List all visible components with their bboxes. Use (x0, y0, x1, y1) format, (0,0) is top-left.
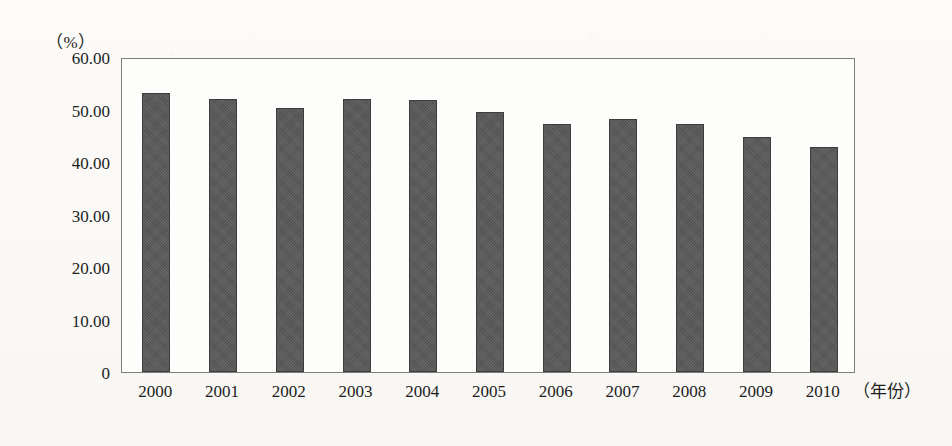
bar (209, 99, 237, 372)
x-axis-tick-label: 2002 (272, 383, 306, 400)
x-axis-tick-label: 2003 (339, 383, 373, 400)
x-axis-tick-labels: 2000200120022003200420052006200720082009… (121, 383, 855, 413)
x-axis-tick-label: 2000 (138, 383, 172, 400)
x-axis-tick-label: 2004 (405, 383, 439, 400)
bar (743, 137, 771, 372)
y-axis-tick-label: 50.00 (38, 102, 110, 119)
bar (409, 100, 437, 372)
y-axis-tick-label: 30.00 (38, 207, 110, 224)
plot-area (121, 58, 855, 373)
bar (609, 119, 637, 372)
x-axis-tick-label: 2010 (806, 383, 840, 400)
bar (142, 93, 170, 372)
chart-page: （%） 010.0020.0030.0040.0050.0060.00 2000… (0, 0, 952, 446)
y-axis-tick-label: 40.00 (38, 155, 110, 172)
bar (343, 99, 371, 372)
y-axis-tick-label: 0 (38, 365, 110, 382)
y-axis-tick-label: 60.00 (38, 50, 110, 67)
bar (543, 124, 571, 372)
x-axis-tick-label: 2001 (205, 383, 239, 400)
bar-series (122, 59, 854, 372)
x-axis-tick-label: 2007 (605, 383, 639, 400)
bar (476, 112, 504, 372)
x-axis-tick-label: 2006 (539, 383, 573, 400)
y-axis-tick-label: 10.00 (38, 312, 110, 329)
bar (810, 147, 838, 372)
x-axis-tick-label: 2009 (739, 383, 773, 400)
x-axis-tick-label: 2005 (472, 383, 506, 400)
x-axis-tick-label: 2008 (672, 383, 706, 400)
bar (676, 124, 704, 372)
x-axis-title: （年份） (853, 383, 921, 400)
y-axis-tick-label: 20.00 (38, 260, 110, 277)
bar (276, 108, 304, 372)
y-axis-tick-labels: 010.0020.0030.0040.0050.0060.00 (38, 0, 110, 446)
